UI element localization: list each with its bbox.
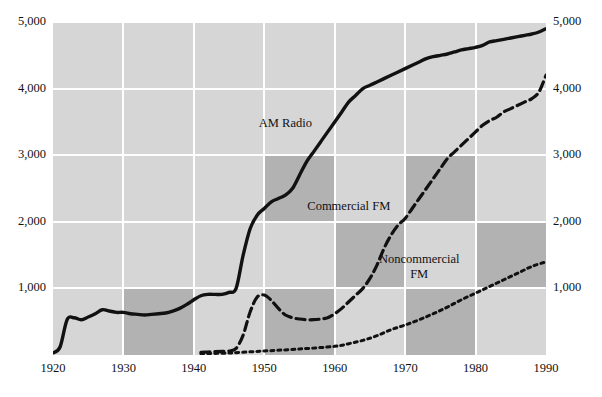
x-axis-tick-label: 1920 xyxy=(41,362,66,375)
y-axis-tick-label-right: 4,000 xyxy=(553,82,581,95)
series-label-am-radio: AM Radio xyxy=(259,116,312,130)
radio-stations-chart: 1,0002,0003,0004,0005,000 1,0002,0003,00… xyxy=(0,0,602,397)
y-axis-tick-label-left: 5,000 xyxy=(18,15,46,28)
x-axis-tick-label: 1960 xyxy=(322,362,347,375)
series-label-noncommercial: Noncommercial FM xyxy=(379,252,460,281)
y-axis-tick-label-right: 2,000 xyxy=(553,215,581,228)
y-axis-tick-label-right: 1,000 xyxy=(553,281,581,294)
x-axis-tick-label: 1950 xyxy=(252,362,277,375)
y-axis-tick-label-right: 3,000 xyxy=(553,148,581,161)
y-axis-tick-label-left: 2,000 xyxy=(18,215,46,228)
x-axis-tick-label: 1940 xyxy=(181,362,206,375)
plot-area xyxy=(53,22,546,355)
series-line-am-radio xyxy=(53,29,546,353)
x-axis-tick-label: 1970 xyxy=(393,362,418,375)
series-line-commercial-fm xyxy=(201,75,546,352)
x-axis-tick-label: 1990 xyxy=(534,362,559,375)
series-lines xyxy=(53,22,546,355)
y-axis-tick-label-left: 3,000 xyxy=(18,148,46,161)
y-axis-tick-label-left: 4,000 xyxy=(18,82,46,95)
x-axis-tick-label: 1930 xyxy=(111,362,136,375)
y-axis-tick-label-right: 5,000 xyxy=(553,15,581,28)
y-axis-tick-label-left: 1,000 xyxy=(18,281,46,294)
series-label-commercial-fm: Commercial FM xyxy=(307,199,390,213)
x-axis-tick-label: 1980 xyxy=(463,362,488,375)
